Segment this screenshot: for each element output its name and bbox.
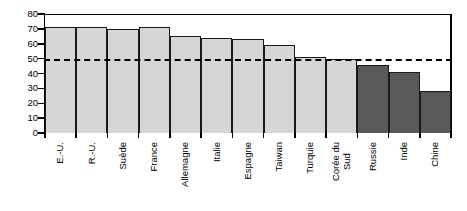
bar <box>201 38 232 133</box>
x-axis-tick-label: Suède <box>118 142 129 169</box>
x-label-cell: Inde <box>389 140 420 211</box>
x-axis-tick-label-line: France <box>149 142 160 172</box>
x-axis-tick-label: Allemagne <box>180 142 191 187</box>
x-tick-mark <box>389 133 420 138</box>
bar-cell <box>45 14 76 133</box>
x-tick-mark <box>170 133 201 138</box>
bar <box>170 36 201 133</box>
x-tick-mark <box>357 133 388 138</box>
bar <box>139 27 170 133</box>
x-tick-mark <box>232 133 263 138</box>
y-tick-mark <box>38 103 45 105</box>
x-axis-tick-label: R.-U. <box>87 142 98 164</box>
y-tick-mark <box>38 73 45 75</box>
y-tick-label: 20 <box>4 98 38 108</box>
x-axis-tick-label: Russie <box>368 142 379 171</box>
y-tick-mark <box>38 117 45 119</box>
x-label-cell: Allemagne <box>170 140 201 211</box>
y-tick-label: 70 <box>4 24 38 34</box>
x-axis-tick-label-line: Espagne <box>243 142 254 180</box>
y-tick-mark <box>38 13 45 15</box>
x-axis-labels: E.-U.R.-U.SuèdeFranceAllemagneItalieEspa… <box>45 140 451 211</box>
bar-cell <box>420 14 451 133</box>
reference-line-50 <box>44 59 452 61</box>
y-tick-mark <box>38 58 45 60</box>
x-axis-tick-label-line: Taiwan <box>274 142 285 172</box>
x-axis-tick-label-line: R.-U. <box>87 142 98 164</box>
x-label-cell: Corée duSud <box>326 140 357 211</box>
bar <box>326 59 357 133</box>
bar <box>232 39 263 133</box>
x-label-cell: France <box>139 140 170 211</box>
y-tick-label: 10 <box>4 113 38 123</box>
x-axis-ticks <box>45 133 451 138</box>
bar-cell <box>139 14 170 133</box>
x-axis-tick-label: Espagne <box>243 142 254 180</box>
x-label-cell: Suède <box>107 140 138 211</box>
bar-cell <box>201 14 232 133</box>
x-label-cell: Russie <box>357 140 388 211</box>
bar-series <box>45 14 451 133</box>
x-label-cell: Turquie <box>295 140 326 211</box>
bar-cell <box>264 14 295 133</box>
x-tick-mark <box>139 133 170 138</box>
x-axis-tick-label: Taiwan <box>274 142 285 172</box>
bar <box>389 72 420 133</box>
x-tick-mark <box>295 133 326 138</box>
y-tick-mark <box>38 28 45 30</box>
bar-cell <box>232 14 263 133</box>
bar-cell <box>76 14 107 133</box>
x-axis-tick-label: E.-U. <box>55 142 66 164</box>
x-axis-tick-label: Chine <box>430 142 441 167</box>
x-label-cell: Espagne <box>232 140 263 211</box>
y-tick-label: 60 <box>4 39 38 49</box>
y-tick-mark <box>38 88 45 90</box>
bar <box>107 29 138 133</box>
x-axis-tick-label-line: Inde <box>399 142 410 161</box>
x-tick-mark <box>326 133 357 138</box>
x-label-cell: R.-U. <box>76 140 107 211</box>
y-tick-label: 80 <box>4 9 38 19</box>
x-tick-mark <box>76 133 107 138</box>
y-tick-label: 0 <box>4 128 38 138</box>
bar-cell <box>295 14 326 133</box>
y-tick-mark <box>38 132 45 134</box>
x-axis-tick-label-line: Suède <box>118 142 129 169</box>
bar-cell <box>107 14 138 133</box>
x-axis-tick-label: Italie <box>212 142 223 162</box>
y-tick-label: 40 <box>4 69 38 79</box>
x-axis-tick-label-line: Italie <box>212 142 223 162</box>
y-tick-label: 50 <box>4 54 38 64</box>
bar-cell <box>389 14 420 133</box>
bar <box>357 65 388 133</box>
bar-cell <box>170 14 201 133</box>
bar <box>295 57 326 133</box>
x-axis-tick-label-line: Chine <box>430 142 441 167</box>
bar-chart: 01020304050607080 E.-U.R.-U.SuèdeFranceA… <box>0 0 467 211</box>
x-tick-mark <box>420 133 451 138</box>
x-label-cell: E.-U. <box>45 140 76 211</box>
x-axis-tick-label: Turquie <box>305 142 316 174</box>
y-tick-mark <box>38 43 45 45</box>
x-axis-tick-label-line: Allemagne <box>180 142 191 187</box>
bar <box>45 27 76 133</box>
x-tick-mark <box>201 133 232 138</box>
x-label-cell: Taiwan <box>264 140 295 211</box>
bar-cell <box>357 14 388 133</box>
x-tick-mark <box>45 133 76 138</box>
x-axis-tick-label-line: E.-U. <box>55 142 66 164</box>
x-axis-tick-label: Corée duSud <box>331 142 352 181</box>
bar <box>76 27 107 133</box>
x-axis-tick-label: Inde <box>399 142 410 161</box>
y-axis-labels: 01020304050607080 <box>0 0 38 211</box>
x-axis-tick-label-line: Russie <box>368 142 379 171</box>
x-axis-tick-label: France <box>149 142 160 172</box>
x-label-cell: Chine <box>420 140 451 211</box>
x-tick-mark <box>264 133 295 138</box>
x-axis-tick-label-line: Sud <box>342 142 353 181</box>
x-tick-mark <box>107 133 138 138</box>
y-tick-label: 30 <box>4 83 38 93</box>
bar-cell <box>326 14 357 133</box>
x-label-cell: Italie <box>201 140 232 211</box>
bar <box>420 91 451 133</box>
